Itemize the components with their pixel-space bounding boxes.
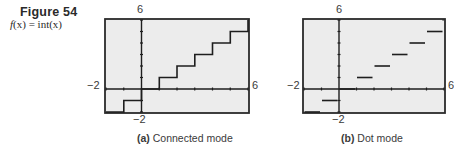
- figure-function: f(x) = int(x): [10, 18, 62, 30]
- connected-mode-graph: [104, 18, 250, 114]
- panel-b-caption-text: Dot mode: [357, 132, 403, 144]
- panel-b-caption-tag: (b): [341, 132, 354, 144]
- figure-label: Figure 54: [20, 5, 77, 19]
- panel-b-plot: [302, 18, 446, 114]
- panel-b-xmax-label: 6: [448, 79, 454, 91]
- panel-b-ymax-label: 6: [336, 3, 342, 15]
- panel-b-ymin-label: −2: [332, 113, 345, 125]
- dot-mode-graph: [302, 18, 446, 114]
- panel-a-ymax-label: 6: [137, 3, 143, 15]
- panel-a-caption: (a) Connected mode: [137, 132, 233, 144]
- panel-a-xmin-label: −2: [87, 79, 100, 91]
- panel-a-plot: [104, 18, 250, 114]
- panel-a-xmax-label: 6: [252, 79, 258, 91]
- panel-a-caption-text: Connected mode: [153, 132, 233, 144]
- function-rest: (x) = int(x): [13, 18, 62, 30]
- panel-a-ymin-label: −2: [133, 113, 146, 125]
- panel-b-xmin-label: −2: [287, 79, 300, 91]
- panel-a-caption-tag: (a): [137, 132, 150, 144]
- panel-b-caption: (b) Dot mode: [341, 132, 403, 144]
